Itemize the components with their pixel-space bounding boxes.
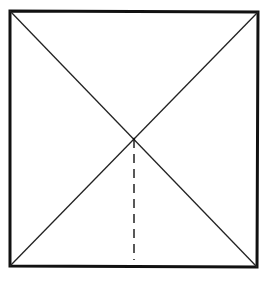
intersection-point: [133, 138, 135, 140]
square-diagonals-diagram: [0, 0, 277, 283]
